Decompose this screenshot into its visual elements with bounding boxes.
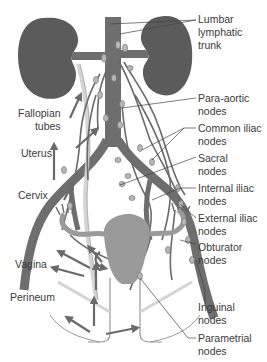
right-kidney [141,16,192,96]
label-perineum: Perineum [10,291,55,304]
perineum-lines [58,282,192,312]
label-parametrial-nodes: Parametrial nodes [198,332,252,358]
left-fallopian-tube [62,214,105,234]
label-lumbar-lymphatic-trunk: Lumbar lymphatic trunk [198,13,242,52]
label-inguinal-nodes: Inguinal nodes [198,301,235,327]
label-internal-iliac-nodes: Internal iliac nodes [198,182,254,208]
label-uterus: Uterus [21,147,52,160]
label-fallopian-tubes: Fallopian tubes [18,107,61,133]
label-vagina: Vagina [15,258,47,271]
vagina [88,278,162,342]
uterus [104,214,150,284]
label-common-iliac-nodes: Common iliac nodes [198,122,262,148]
label-obturator-nodes: Obturator nodes [198,241,242,267]
perineum-curves [50,315,200,342]
label-para-aortic-nodes: Para-aortic nodes [198,92,249,118]
label-sacral-nodes: Sacral nodes [198,152,228,178]
label-external-iliac-nodes: External iliac nodes [198,212,258,238]
left-kidney [18,18,78,99]
label-cervix: Cervix [18,189,48,202]
